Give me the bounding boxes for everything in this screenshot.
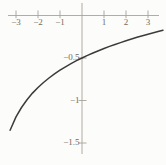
x-tick-label: 2 [124, 17, 129, 27]
x-tick-label: −3 [11, 17, 21, 27]
function-plot: −3−2−1123 −0.5−1−1.5 [0, 0, 166, 165]
plot-canvas: −3−2−1123 −0.5−1−1.5 [0, 0, 166, 165]
y-tick-marks [79, 58, 87, 143]
y-tick-label: −1 [70, 95, 80, 105]
x-tick-label: −2 [33, 17, 43, 27]
x-tick-labels: −3−2−1123 [11, 17, 151, 27]
x-tick-label: −1 [55, 17, 65, 27]
curve-line [10, 30, 163, 130]
y-tick-label: −1.5 [63, 137, 80, 147]
x-tick-label: 1 [102, 17, 107, 27]
x-tick-label: 3 [146, 17, 151, 27]
